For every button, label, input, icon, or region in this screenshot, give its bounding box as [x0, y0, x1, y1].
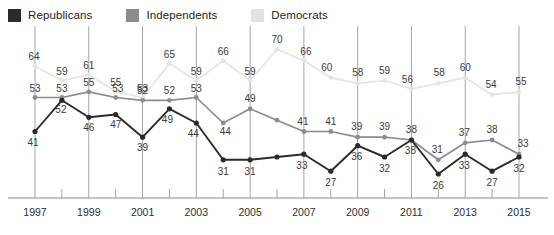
- legend-item-independents: Independents: [126, 9, 217, 22]
- x-axis-ticks: [62, 189, 492, 198]
- data-label: 36: [351, 151, 363, 162]
- x-axis-label: 1999: [77, 206, 101, 218]
- data-label: 59: [191, 66, 203, 77]
- x-axis-label: 2011: [400, 206, 423, 218]
- data-label: 39: [379, 121, 391, 132]
- data-label: 31: [432, 144, 444, 155]
- data-point: [355, 135, 360, 140]
- legend-swatch-icon: [251, 9, 264, 22]
- data-label: 58: [352, 67, 364, 78]
- data-point: [490, 92, 495, 97]
- data-point: [355, 143, 360, 148]
- data-point: [463, 140, 468, 145]
- data-label: 53: [112, 83, 124, 94]
- legend-label-republicans: Republicans: [28, 9, 92, 21]
- data-label: 41: [325, 116, 337, 127]
- data-label: 65: [164, 49, 176, 60]
- data-label: 27: [325, 177, 337, 188]
- data-point: [382, 135, 387, 140]
- data-point: [59, 98, 64, 103]
- plot-area: 6459615553655966597066605859565860545553…: [0, 26, 554, 235]
- data-point: [463, 152, 468, 157]
- data-label: 47: [110, 119, 122, 130]
- data-point: [436, 157, 441, 162]
- data-label: 39: [351, 121, 363, 132]
- data-label: 44: [188, 128, 200, 139]
- legend-swatch-icon: [8, 9, 21, 22]
- data-label: 33: [459, 160, 471, 171]
- data-label: 59: [56, 66, 68, 77]
- x-axis-label: 2007: [292, 206, 316, 218]
- data-label: 66: [218, 46, 230, 57]
- data-label: 31: [245, 166, 257, 177]
- data-label: 59: [245, 66, 257, 77]
- data-label: 41: [27, 137, 39, 148]
- gridlines: [35, 26, 519, 198]
- data-label: 60: [460, 62, 472, 73]
- x-axis-label: 1997: [23, 206, 47, 218]
- data-point: [167, 98, 172, 103]
- data-point: [86, 89, 91, 94]
- data-point: [355, 81, 360, 86]
- x-axis-label: 2005: [238, 206, 262, 218]
- series-democrats: [33, 47, 522, 100]
- data-label: 53: [29, 83, 41, 94]
- data-point: [382, 154, 387, 159]
- data-point: [86, 115, 91, 120]
- labels-republicans: 415246473949443131332736323826332732: [27, 104, 525, 191]
- data-point: [140, 135, 145, 140]
- data-label: 27: [487, 177, 499, 188]
- data-point: [382, 78, 387, 83]
- x-axis-label: 2003: [185, 206, 209, 218]
- data-label: 61: [83, 60, 95, 71]
- data-label: 38: [405, 145, 417, 156]
- data-point: [463, 75, 468, 80]
- x-axis-label: 2009: [346, 206, 370, 218]
- data-point: [302, 129, 307, 134]
- data-point: [248, 106, 253, 111]
- legend-item-democrats: Democrats: [251, 9, 328, 22]
- data-point: [328, 75, 333, 80]
- data-label: 26: [433, 180, 445, 191]
- chart-canvas: 6459615553655966597066605859565860545553…: [0, 26, 554, 235]
- legend-swatch-icon: [126, 9, 139, 22]
- data-label: 32: [513, 163, 525, 174]
- data-point: [221, 157, 226, 162]
- legend-label-independents: Independents: [146, 9, 217, 21]
- data-label: 39: [137, 142, 149, 153]
- data-label: 59: [379, 65, 391, 76]
- data-point: [436, 171, 441, 176]
- data-label: 32: [379, 163, 391, 174]
- data-label: 49: [162, 114, 174, 125]
- data-point: [301, 152, 306, 157]
- data-point: [516, 154, 521, 159]
- data-point: [436, 81, 441, 86]
- x-axis-label: 2013: [454, 206, 478, 218]
- data-point: [167, 61, 172, 66]
- data-point: [274, 154, 279, 159]
- data-label: 58: [434, 67, 446, 78]
- series-line: [35, 100, 519, 174]
- legend-item-republicans: Republicans: [8, 9, 92, 22]
- data-point: [221, 58, 226, 63]
- data-point: [409, 137, 414, 142]
- chart-legend: Republicans Independents Democrats: [8, 5, 362, 25]
- data-label: 53: [191, 83, 203, 94]
- data-point: [409, 87, 414, 92]
- data-point: [113, 112, 118, 117]
- series-independents: [33, 89, 522, 162]
- data-point: [32, 129, 37, 134]
- data-label: 64: [28, 51, 40, 62]
- series-line: [35, 92, 519, 160]
- data-label: 46: [83, 122, 95, 133]
- data-label: 66: [300, 46, 312, 57]
- data-point: [167, 106, 172, 111]
- data-label: 52: [164, 85, 176, 96]
- data-point: [248, 157, 253, 162]
- data-label: 55: [515, 76, 527, 87]
- data-label: 53: [56, 83, 68, 94]
- data-point: [302, 58, 307, 63]
- data-point: [490, 138, 495, 143]
- data-point: [275, 118, 280, 123]
- x-axis-label: 2001: [131, 206, 155, 218]
